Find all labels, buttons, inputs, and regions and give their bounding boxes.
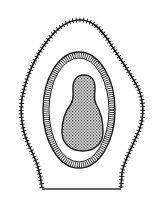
inner-body (62, 75, 103, 151)
diagram-canvas (0, 0, 158, 204)
cell-diagram (0, 0, 158, 204)
